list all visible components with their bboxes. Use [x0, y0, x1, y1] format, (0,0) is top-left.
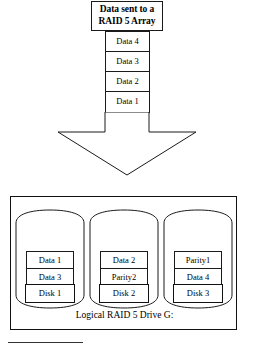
disk-name-label: Disk 1 [25, 284, 75, 303]
disk-blocks: Parity1 Data 4 [174, 251, 222, 287]
diagram-title-line-2: RAID 5 Array [93, 16, 161, 28]
disk-blocks: Data 1 Data 3 [26, 251, 74, 287]
disk-blocks: Data 2 Parity2 [100, 251, 148, 287]
disk-name-label: Disk 2 [99, 284, 149, 303]
disk-cylinder: Parity1 Data 4 Disk 3 [163, 209, 233, 309]
incoming-block: Data 3 [106, 52, 149, 72]
raid5-diagram: Data sent to a RAID 5 Array Data 4 Data … [0, 0, 254, 350]
disk-name-label: Disk 3 [173, 284, 223, 303]
disk-block: Data 2 [101, 252, 147, 269]
diagram-title-box: Data sent to a RAID 5 Array [91, 1, 163, 31]
incoming-block: Data 4 [106, 32, 149, 52]
disk-cylinder: Data 1 Data 3 Disk 1 [15, 209, 85, 309]
down-block-arrow-icon [55, 112, 199, 178]
incoming-data-stack: Data 4 Data 3 Data 2 Data 1 [105, 31, 150, 113]
disk-block: Data 1 [27, 252, 73, 269]
array-caption: Logical RAID 5 Drive G: [11, 310, 238, 320]
incoming-block: Data 2 [106, 72, 149, 92]
raid-array-box: Data 1 Data 3 Disk 1 Data 2 Parity2 Disk… [10, 196, 237, 330]
down-arrow [55, 112, 199, 178]
incoming-block: Data 1 [106, 92, 149, 112]
disk-block: Parity1 [175, 252, 221, 269]
footnote-separator [8, 342, 83, 343]
diagram-title-line-1: Data sent to a [93, 4, 161, 16]
disk-cylinder: Data 2 Parity2 Disk 2 [89, 209, 159, 309]
